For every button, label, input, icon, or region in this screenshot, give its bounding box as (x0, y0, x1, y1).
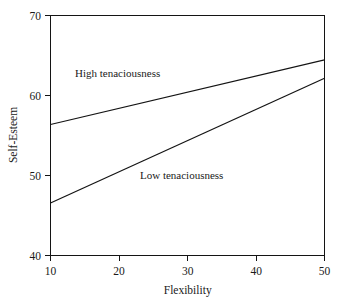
line-chart: 70 60 50 40 10 20 30 40 50 Flexibility S… (0, 0, 343, 305)
y-tick-label-40: 40 (30, 250, 42, 262)
y-tick-label-60: 60 (30, 90, 42, 102)
y-tick-label-50: 50 (30, 170, 42, 182)
y-tick-label-70: 70 (30, 10, 42, 22)
x-tick-label-10: 10 (45, 265, 57, 277)
x-axis-title: Flexibility (164, 284, 212, 297)
x-tick-label-50: 50 (319, 265, 331, 277)
y-axis-title: Self-Esteem (7, 107, 19, 163)
series-label-high-tenaciousness: High tenaciousness (75, 67, 160, 79)
series-line-low-tenaciousness (51, 78, 325, 203)
x-tick-label-20: 20 (113, 265, 125, 277)
x-tick-label-30: 30 (182, 265, 194, 277)
chart-figure: 70 60 50 40 10 20 30 40 50 Flexibility S… (0, 0, 343, 305)
series-label-low-tenaciousness: Low tenaciousness (140, 169, 223, 181)
x-tick-label-40: 40 (251, 265, 263, 277)
